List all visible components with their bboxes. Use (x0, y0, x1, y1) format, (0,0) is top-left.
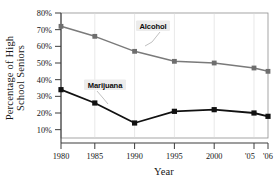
y-tick-label-30: 30% (37, 92, 52, 101)
y-tick-labels: 80% 70% 60% 50% 40% 30% 20% 10% (37, 9, 52, 135)
alcohol-point-2000 (212, 61, 217, 66)
alcohol-point-2006 (266, 69, 271, 74)
marijuana-point-2005 (251, 110, 256, 115)
x-tick-label-2005: '05 (245, 152, 255, 161)
alcohol-point-1990 (132, 49, 137, 54)
alcohol-point-1980 (59, 24, 64, 29)
x-tick-labels: 1980 1985 1990 1995 2000 '05 '06 (53, 152, 273, 161)
x-tick-label-2006: '06 (263, 152, 273, 161)
y-axis-title-line1: Percentage of High (4, 35, 15, 120)
alcohol-line (61, 26, 268, 71)
marijuana-point-2006 (265, 114, 270, 119)
y-tick-label-80: 80% (37, 9, 52, 18)
marijuana-leader-line (97, 91, 108, 104)
x-tick-label-2000: 2000 (206, 152, 223, 161)
series-marijuana (58, 87, 270, 126)
y-tick-label-20: 20% (37, 109, 52, 118)
y-tick-label-40: 40% (37, 76, 52, 85)
alcohol-leader-line (145, 32, 160, 46)
chart-figure: 80% 70% 60% 50% 40% 30% 20% 10% 1980 198… (0, 0, 275, 178)
alcohol-point-1985 (92, 34, 97, 39)
y-axis-title: Percentage of High School Seniors (4, 35, 26, 120)
x-axis (61, 143, 268, 149)
plot-frame-group (61, 13, 268, 138)
marijuana-point-2000 (212, 107, 217, 112)
alcohol-label: Alcohol (139, 22, 166, 31)
y-tick-label-50: 50% (37, 59, 52, 68)
y-tick-label-70: 70% (37, 26, 52, 35)
alcohol-point-2005 (252, 66, 257, 71)
line-chart: 80% 70% 60% 50% 40% 30% 20% 10% 1980 198… (0, 0, 275, 178)
x-tick-label-1985: 1985 (87, 152, 104, 161)
y-axis (55, 13, 61, 143)
y-tick-label-60: 60% (37, 42, 52, 51)
marijuana-label: Marijuana (88, 81, 123, 90)
annotation-alcohol: Alcohol (136, 21, 170, 47)
y-tick-label-10: 10% (37, 126, 52, 135)
x-axis-title: Year (154, 166, 174, 177)
marijuana-line (61, 90, 268, 123)
y-axis-title-line2: School Seniors (15, 45, 26, 111)
marijuana-point-1985 (92, 100, 97, 105)
x-tick-label-1995: 1995 (166, 152, 183, 161)
marijuana-point-1990 (132, 120, 137, 125)
x-tick-label-1990: 1990 (126, 152, 143, 161)
marijuana-point-1995 (172, 109, 177, 114)
alcohol-point-1995 (172, 59, 177, 64)
plot-area-border (61, 13, 268, 138)
marijuana-point-1980 (58, 87, 63, 92)
x-tick-label-1980: 1980 (53, 152, 70, 161)
series-alcohol (59, 24, 271, 74)
